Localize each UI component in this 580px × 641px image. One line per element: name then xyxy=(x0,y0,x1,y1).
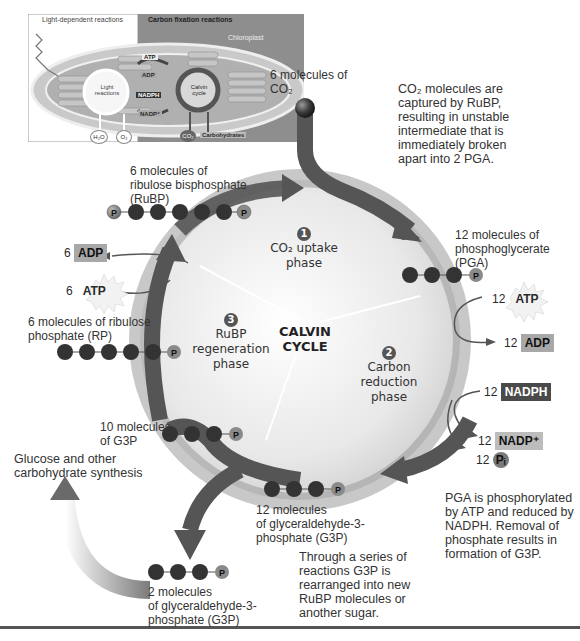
phase-2-label: 2 Carbon reduction phase xyxy=(344,345,434,405)
g3p2-label: 2 moleculesof glyceraldehyde-3-phosphate… xyxy=(148,585,257,627)
co2-molecule xyxy=(295,98,315,118)
g3p2-chain: P xyxy=(146,562,236,586)
phase-3-label: 3 RuBP regeneration phase xyxy=(186,312,276,372)
svg-text:P: P xyxy=(335,485,341,495)
svg-text:P: P xyxy=(219,568,225,578)
reduction-atp: 12 ATP xyxy=(492,292,538,306)
reduction-pi: 12 Pᵢ xyxy=(476,452,509,468)
svg-text:P: P xyxy=(473,271,479,281)
reduction-adp: 12 ADP xyxy=(504,336,554,350)
nadp-tag: NADP⁺ xyxy=(495,432,543,450)
pga-label: 12 molecules ofphosphoglycerate(PGA) xyxy=(455,228,550,270)
adp-tag: ADP xyxy=(521,334,554,352)
rp-chain: P xyxy=(55,342,185,366)
reduction-note: PGA is phosphorylatedby ATP and reduced … xyxy=(445,491,574,561)
svg-text:P: P xyxy=(233,430,239,440)
g3p12-chain: P xyxy=(262,479,352,503)
reduction-nadp: 12 NADP⁺ xyxy=(478,434,543,448)
phase-2-number: 2 xyxy=(382,346,396,360)
pi-icon: Pᵢ xyxy=(493,452,509,468)
phase-1-number: 1 xyxy=(297,227,311,241)
phase-3-number: 3 xyxy=(224,313,238,327)
g3p12-label: 12 moleculesof glyceraldehyde-3-phosphat… xyxy=(256,503,365,545)
rubp-label: 6 molecules ofribulose bisphosphate(RuBP… xyxy=(130,164,247,206)
phosphate-label: P xyxy=(111,208,117,218)
adp-tag: ADP xyxy=(74,244,107,262)
g3p10-label: 10 moleculesof G3P xyxy=(100,420,171,448)
phase-1-label: 1 CO₂ uptake phase xyxy=(254,226,354,271)
nadph-tag: NADPH xyxy=(501,383,552,401)
calvin-cycle-title: CALVIN CYCLE xyxy=(270,324,340,354)
atp-tag: ATP xyxy=(83,284,106,298)
g3p10-chain: P xyxy=(160,424,250,448)
reduction-nadph: 12 NADPH xyxy=(484,385,551,399)
regen-atp: 6 ATP xyxy=(66,284,106,298)
svg-text:P: P xyxy=(241,208,247,218)
regeneration-note: Through a series ofreactions G3P isrearr… xyxy=(299,550,410,620)
uptake-note: CO₂ molecules arecaptured by RuBP,result… xyxy=(398,82,509,166)
glucose-synthesis-label: Glucose and othercarbohydrate synthesis xyxy=(14,452,143,480)
co2-input-label: 6 molecules ofCO₂ xyxy=(270,68,347,96)
svg-text:P: P xyxy=(171,348,177,358)
regen-adp: 6 ADP xyxy=(64,246,107,260)
rp-label: 6 molecules of ribulosephosphate (RP) xyxy=(28,315,151,343)
atp-tag: ATP xyxy=(515,292,538,306)
